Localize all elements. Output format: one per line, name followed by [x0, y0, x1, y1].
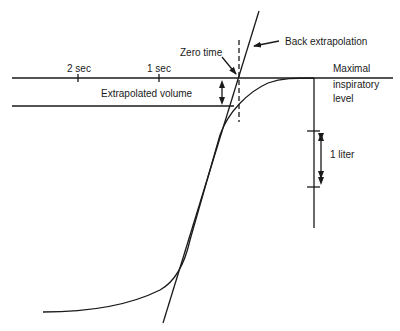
liter-arrowhead-up	[318, 133, 324, 141]
label-zero-time: Zero time	[180, 47, 223, 58]
label-maximal: Maximal	[333, 63, 370, 74]
spirogram-curve	[43, 78, 314, 312]
extrap-arrowhead-down	[219, 97, 225, 105]
label-one-liter: 1 liter	[330, 149, 355, 160]
label-level: level	[333, 93, 354, 104]
zero-time-pointer-arrow	[222, 57, 236, 74]
diagram-canvas: Zero time Back extrapolation 2 sec 1 sec…	[0, 0, 400, 331]
label-inspiratory: inspiratory	[333, 79, 379, 90]
label-back-extrapolation: Back extrapolation	[285, 36, 367, 47]
liter-arrowhead-down	[318, 177, 324, 185]
label-1-sec: 1 sec	[147, 63, 171, 74]
extrap-arrowhead-up	[219, 80, 225, 88]
label-2-sec: 2 sec	[67, 63, 91, 74]
back-extrapolation-pointer-arrow	[254, 41, 279, 46]
label-extrapolated-volume: Extrapolated volume	[101, 88, 193, 99]
